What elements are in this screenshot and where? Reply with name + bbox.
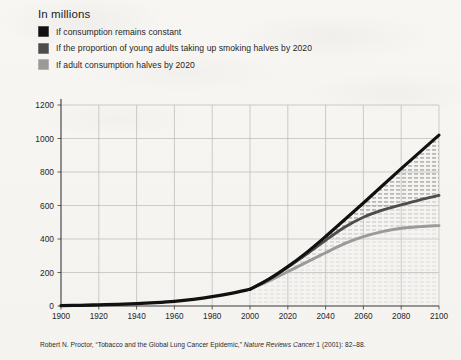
svg-text:2020: 2020	[279, 312, 298, 321]
x-axis-tick-labels: 1900192019401960198020002020204020602080…	[52, 306, 449, 321]
svg-text:2100: 2100	[430, 312, 449, 321]
svg-text:1980: 1980	[203, 312, 222, 321]
chart-plot-area: 020040060080010001200 190019201940196019…	[0, 0, 461, 360]
svg-text:1920: 1920	[90, 312, 109, 321]
svg-text:600: 600	[40, 201, 54, 211]
svg-text:1940: 1940	[127, 312, 146, 321]
svg-text:1960: 1960	[165, 312, 184, 321]
line-chart-svg: 020040060080010001200 190019201940196019…	[0, 0, 461, 360]
source-caption: Robert N. Proctor, “Tobacco and the Glob…	[40, 341, 366, 348]
svg-text:200: 200	[40, 268, 54, 278]
svg-text:1200: 1200	[35, 100, 54, 110]
caption-after: 1 (2001): 82–88.	[314, 341, 365, 348]
y-axis-tick-labels: 020040060080010001200	[35, 100, 61, 311]
series-line-historical	[61, 289, 250, 305]
svg-text:0: 0	[49, 301, 54, 311]
svg-text:1000: 1000	[35, 134, 54, 144]
svg-text:400: 400	[40, 234, 54, 244]
caption-before: Robert N. Proctor, “Tobacco and the Glob…	[40, 341, 244, 348]
svg-text:2000: 2000	[241, 312, 260, 321]
svg-text:2080: 2080	[392, 312, 411, 321]
svg-text:800: 800	[40, 167, 54, 177]
svg-text:1900: 1900	[52, 312, 71, 321]
svg-text:2060: 2060	[354, 312, 373, 321]
caption-journal: Nature Reviews Cancer	[244, 341, 315, 348]
svg-text:2040: 2040	[316, 312, 335, 321]
